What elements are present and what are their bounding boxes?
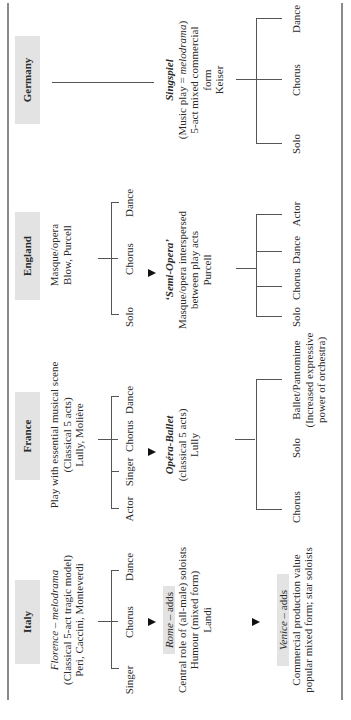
melodrama-label: melodrama <box>176 25 188 75</box>
ballet-pantomime-label: Ballet/Pantomime <box>290 330 303 430</box>
germany-stem2 <box>236 79 256 80</box>
england-bracket2-chorus <box>256 286 282 287</box>
germany-result-line2: 5-act mixed commercial <box>188 0 201 160</box>
england-branch2-dance: Dance <box>290 236 302 264</box>
italy-branch-dance: Dance <box>123 553 135 581</box>
venice-line2: popular mixed form; star soloists <box>302 525 315 715</box>
france-intro: Play with essential musical scene (Class… <box>48 340 86 530</box>
england-bracket2-solo <box>256 316 282 317</box>
dash: – <box>48 620 60 631</box>
france-intro-line1: Play with essential musical scene <box>48 340 61 530</box>
england-branch-solo: Solo <box>123 307 135 327</box>
opera-forms-diagram: Italy Florence – melodrama (Classical 5-… <box>0 0 351 720</box>
italy-intro-line2: (Classical 5-act tragic model) <box>61 530 74 710</box>
germany-result: Singspiel (Music play = melodrama) 5-act… <box>163 0 226 160</box>
france-branch-chorus: Chorus <box>123 420 135 452</box>
england-branch2-actor: Actor <box>290 201 302 226</box>
england-result-line3: Purcell <box>201 200 214 340</box>
england-branch2-chorus: Chorus <box>290 268 302 300</box>
england-result: ‘Semi-Opera’ Masque/opera interspersed b… <box>163 200 213 340</box>
england-bracket2-dance <box>256 251 282 252</box>
rome-line1: Central role of (all-male) soloists <box>176 525 189 715</box>
france-bracket2-bar <box>256 380 257 510</box>
england-bracket-bar <box>111 203 112 315</box>
england-stem <box>98 258 118 259</box>
arrow-down-icon <box>252 618 260 626</box>
germany-branch2-dance: Dance <box>290 5 302 33</box>
germany-bracket2-bar <box>256 19 257 144</box>
france-intro-line2: (Classical 5 acts) <box>61 340 74 530</box>
france-stem <box>98 439 118 440</box>
france-branch-actor: Actor <box>123 496 135 521</box>
france-bracket-left <box>111 508 119 509</box>
ballet-note-line2: power of orchestra) <box>315 330 328 430</box>
france-bracket2-left <box>256 509 282 510</box>
italy-venice: Venice – adds Commercial production valu… <box>277 525 315 715</box>
france-intro-line3: Lully, Molière <box>73 340 86 530</box>
paren-close: ) <box>176 21 188 25</box>
france-result-line2: Lully <box>188 360 201 530</box>
france-result: Opéra-Ballet (classical 5 acts) Lully <box>163 360 201 530</box>
germany-result-line3: form <box>201 0 214 160</box>
england-intro: Masque/opera Blow, Purcell <box>48 190 73 320</box>
singspiel-title: Singspiel <box>163 59 175 101</box>
arrow-down-icon <box>148 618 156 626</box>
germany-bracket2-left <box>256 143 282 144</box>
england-header: England <box>15 212 40 300</box>
italy-branch-singer: Singer <box>123 666 135 695</box>
rome-label: Rome <box>163 623 175 648</box>
italy-stem <box>98 621 118 622</box>
opera-ballet-title: Opéra-Ballet <box>163 416 175 475</box>
italy-intro: Florence – melodrama (Classical 5-act tr… <box>48 530 86 710</box>
italy-branch-chorus: Chorus <box>123 606 135 638</box>
england-bracket2-bar <box>256 215 257 317</box>
france-bracket-singer <box>111 471 119 472</box>
france-bracket-right <box>111 396 119 397</box>
france-branch2-ballet: Ballet/Pantomime (Increased expressive p… <box>290 330 328 430</box>
england-branch-chorus: Chorus <box>123 243 135 275</box>
rome-line2: Humour (mixed form) <box>188 525 201 715</box>
semi-opera-title: ‘Semi-Opera’ <box>163 239 175 301</box>
italy-bracket-left <box>111 668 119 669</box>
england-branch-dance: Dance <box>123 189 135 217</box>
italy-bracket-right <box>111 570 119 571</box>
germany-stem <box>52 82 154 83</box>
florence-label: Florence <box>48 631 60 670</box>
rome-adds: – adds <box>163 592 175 623</box>
melodrama-label: melodrama <box>48 570 60 620</box>
germany-bracket2-right <box>256 18 282 19</box>
top-rule <box>7 3 9 700</box>
france-bracket-bar <box>111 397 112 509</box>
italy-intro-line3: Peri, Caccini, Monteverdi <box>73 530 86 710</box>
france-branch-singer: Singer <box>123 458 135 487</box>
rome-line3: Landi <box>201 525 214 715</box>
england-result-line1: Masque/opera interspersed <box>176 200 189 340</box>
arrow-down-icon <box>148 448 156 456</box>
england-bracket-left <box>111 314 119 315</box>
england-branch2-solo: Solo <box>290 307 302 327</box>
france-result-line1: (classical 5 acts) <box>176 360 189 530</box>
venice-label: Venice <box>277 621 289 650</box>
italy-bracket-bar <box>111 571 112 669</box>
germany-bracket2-mid <box>256 79 282 80</box>
ballet-note-line1: (Increased expressive <box>303 330 316 430</box>
germany-header: Germany <box>15 36 40 124</box>
venice-adds: – adds <box>277 590 289 621</box>
france-branch-dance: Dance <box>123 386 135 414</box>
music-play-label: (Music play = <box>176 75 188 140</box>
england-result-line2: between play acts <box>188 200 201 340</box>
italy-header: Italy <box>15 580 40 664</box>
germany-branch2-chorus: Chorus <box>290 64 302 96</box>
germany-result-line4: Keiser <box>213 0 226 160</box>
england-intro-line2: Blow, Purcell <box>61 190 74 320</box>
england-bracket2-actor <box>256 214 282 215</box>
arrow-down-icon <box>148 269 156 277</box>
bottom-rule <box>341 3 343 700</box>
france-stem2 <box>235 439 255 440</box>
france-branch2-chorus: Chorus <box>290 491 302 523</box>
england-intro-line1: Masque/opera <box>48 190 61 320</box>
france-bracket2-right <box>256 379 282 380</box>
italy-rome: Rome – adds Central role of (all-male) s… <box>163 525 213 715</box>
france-branch2-solo: Solo <box>290 438 302 458</box>
england-stem2v <box>236 268 256 269</box>
